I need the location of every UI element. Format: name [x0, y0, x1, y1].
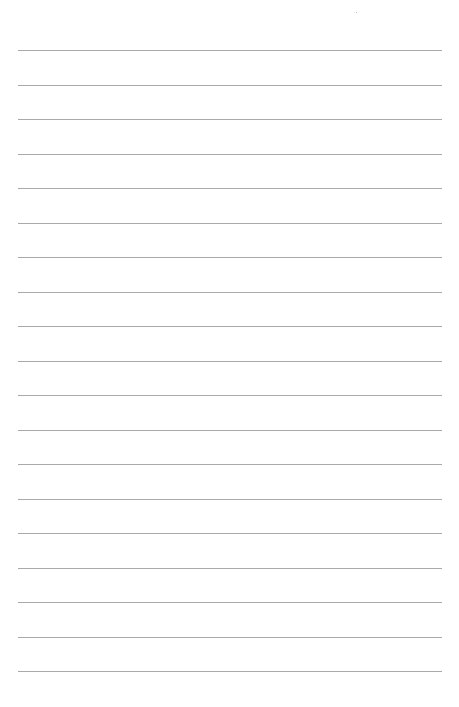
ruled-line [18, 257, 442, 258]
ruled-line [18, 154, 442, 155]
ruled-line [18, 85, 442, 86]
ruled-line [18, 395, 442, 396]
ruled-line [18, 223, 442, 224]
ruled-line [18, 326, 442, 327]
ruled-line [18, 361, 442, 362]
ruled-line [18, 119, 442, 120]
ruled-line [18, 568, 442, 569]
ruled-line [18, 430, 442, 431]
ruled-line [18, 188, 442, 189]
ruled-line [18, 533, 442, 534]
scan-speck [356, 12, 357, 13]
ruled-line [18, 50, 442, 51]
ruled-line [18, 602, 442, 603]
ruled-line [18, 464, 442, 465]
ruled-line [18, 499, 442, 500]
lined-page [0, 0, 459, 707]
ruled-line [18, 637, 442, 638]
ruled-line [18, 671, 442, 672]
ruled-line [18, 292, 442, 293]
